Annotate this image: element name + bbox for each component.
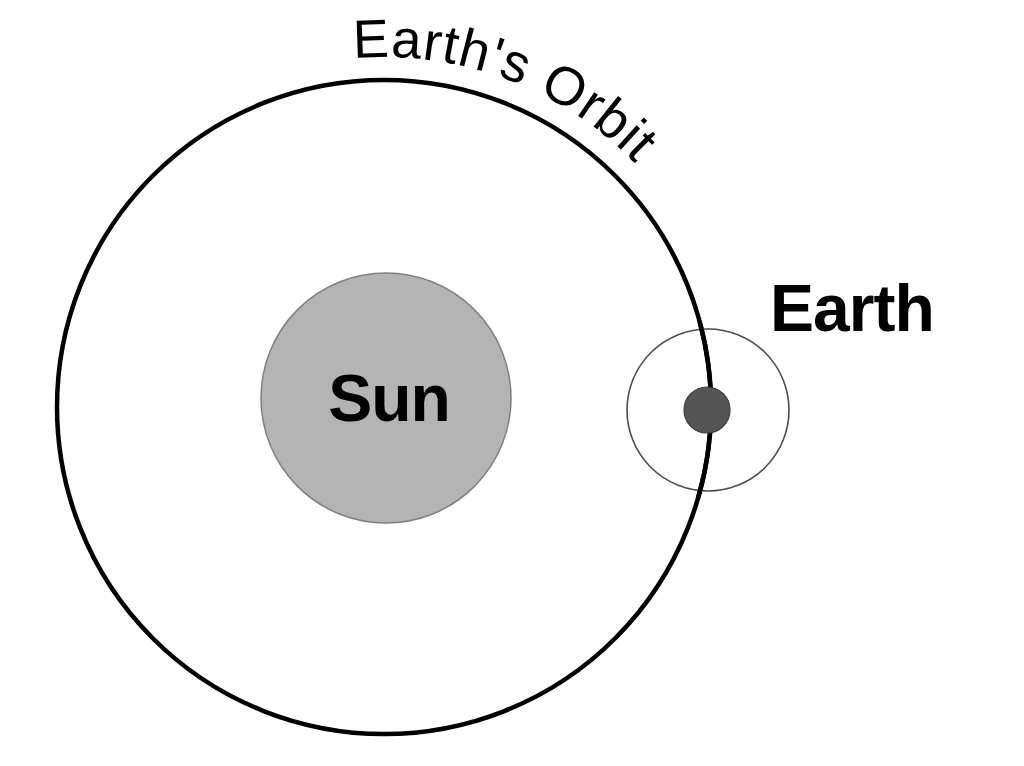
solar-diagram-svg: Sun Earth Earth's Orbit — [0, 0, 1024, 766]
earth-label: Earth — [770, 271, 934, 345]
earth-disc — [684, 387, 730, 433]
sun-label: Sun — [328, 361, 450, 435]
earth-orbit-label: Earth's Orbit — [352, 8, 670, 172]
earth-orbit-label-wrapper: Earth's Orbit — [352, 8, 670, 172]
diagram-canvas: Sun Earth Earth's Orbit — [0, 0, 1024, 766]
